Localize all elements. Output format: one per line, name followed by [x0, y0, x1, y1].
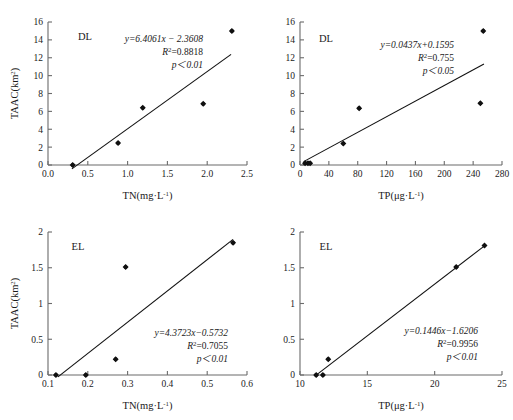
y-tick-label: 0: [290, 160, 295, 170]
x-tick-label: 0.5: [201, 379, 213, 389]
figure-container: 02468101214160.00.51.01.52.02.5DLy=6.406…: [0, 0, 513, 420]
x-tick-label: 120: [379, 169, 394, 179]
panel-bottom-left: 00.511.520.10.20.30.40.50.6ELy=4.3723x−0…: [0, 210, 257, 420]
x-tick-label: 80: [353, 169, 363, 179]
panel-top-right: 024681012141604080120160200240280DLy=0.0…: [256, 0, 513, 210]
r-squared: R2=0.9956: [436, 338, 478, 350]
x-tick-label: 240: [466, 169, 481, 179]
x-tick-label: 2.5: [241, 169, 253, 179]
x-tick-label: 0.4: [161, 379, 173, 389]
y-tick-label: 1: [38, 299, 43, 309]
x-tick-label: 1.5: [161, 169, 173, 179]
x-axis-title: TN(mg·L-1): [123, 190, 174, 203]
data-point-core: [54, 373, 58, 377]
x-tick-label: 0.6: [241, 379, 253, 389]
x-tick-label: 0: [298, 169, 303, 179]
y-tick-label: 1.5: [283, 263, 295, 273]
data-point-core: [341, 142, 345, 146]
x-tick-label: 0.0: [42, 169, 54, 179]
x-tick-label: 20: [430, 379, 440, 389]
y-tick-label: 12: [286, 53, 296, 63]
y-tick-label: 16: [34, 17, 44, 27]
data-point-core: [478, 101, 482, 105]
x-tick-label: 200: [437, 169, 452, 179]
panel-bottom-right: 00.511.5210152025ELy=0.1446x−1.6206R2=0.…: [256, 210, 513, 420]
x-tick-label: 160: [408, 169, 423, 179]
x-tick-label: 40: [324, 169, 334, 179]
x-tick-label: 0.1: [42, 379, 54, 389]
regression-line: [304, 64, 484, 162]
y-tick-label: 2: [38, 143, 43, 153]
y-tick-label: 1: [290, 299, 295, 309]
y-tick-label: 14: [34, 35, 44, 45]
y-axis-title: TAAC(km2): [9, 277, 22, 329]
y-tick-label: 2: [38, 227, 43, 237]
fit-equation: y=6.4061x − 2.3608: [124, 34, 204, 44]
x-tick-label: 25: [497, 379, 507, 389]
data-point-core: [481, 29, 485, 33]
r-squared: R2=0.8818: [161, 46, 203, 58]
data-point-core: [71, 163, 75, 167]
panel-top-left: 02468101214160.00.51.01.52.02.5DLy=6.406…: [0, 0, 257, 210]
y-tick-label: 2: [290, 227, 295, 237]
p-value: p＜0.01: [171, 60, 203, 70]
x-axis-title: TP(μg·L-1): [378, 400, 424, 413]
x-tick-label: 280: [495, 169, 510, 179]
data-point-core: [116, 141, 120, 145]
data-point-core: [84, 373, 88, 377]
p-value: p＜0.05: [422, 66, 455, 76]
data-point-core: [114, 357, 118, 361]
data-point-core: [357, 106, 361, 110]
x-tick-label: 15: [363, 379, 373, 389]
data-point-core: [308, 161, 312, 165]
data-point-core: [483, 244, 487, 248]
r-squared: R2=0.7055: [186, 340, 228, 352]
y-tick-label: 1.5: [31, 263, 43, 273]
p-value: p＜0.01: [446, 352, 478, 362]
fit-equation: y=4.3723x−0.5732: [153, 328, 228, 338]
plot-area: 024681012141604080120160200240280DLy=0.0…: [256, 0, 513, 210]
y-tick-label: 4: [290, 125, 295, 135]
x-tick-label: 0.5: [82, 169, 94, 179]
r-squared: R2=0.755: [417, 52, 454, 64]
y-tick-label: 6: [290, 107, 295, 117]
y-tick-label: 10: [286, 71, 296, 81]
group-label: DL: [319, 33, 333, 44]
group-label: EL: [320, 241, 333, 252]
y-tick-label: 0.5: [31, 335, 43, 345]
fit-equation: y=0.1446x−1.6206: [403, 326, 478, 336]
data-point-core: [201, 102, 205, 106]
y-axis-title: TAAC(km2): [9, 67, 22, 119]
y-tick-label: 0.5: [283, 335, 295, 345]
x-tick-label: 10: [295, 379, 305, 389]
x-axis-title: TN(mg·L-1): [123, 400, 174, 413]
y-tick-label: 8: [38, 89, 43, 99]
y-tick-label: 8: [290, 89, 295, 99]
data-point-core: [141, 106, 145, 110]
group-label: DL: [78, 31, 92, 42]
y-tick-label: 14: [286, 35, 296, 45]
data-point-core: [454, 265, 458, 269]
regression-line: [72, 54, 231, 169]
data-point-core: [230, 29, 234, 33]
x-tick-label: 1.0: [122, 169, 134, 179]
y-tick-label: 4: [38, 125, 43, 135]
x-tick-label: 0.3: [122, 379, 134, 389]
y-tick-label: 2: [290, 143, 295, 153]
p-value: p＜0.01: [196, 354, 228, 364]
x-tick-label: 2.0: [201, 169, 213, 179]
fit-equation: y=0.0437x+0.1595: [379, 40, 454, 50]
plot-area: 02468101214160.00.51.01.52.02.5DLy=6.406…: [0, 0, 257, 210]
data-point-core: [314, 373, 318, 377]
x-axis-title: TP(μg·L-1): [378, 190, 424, 203]
data-point-core: [321, 373, 325, 377]
y-tick-label: 6: [38, 107, 43, 117]
y-tick-label: 10: [34, 71, 44, 81]
y-tick-label: 12: [34, 53, 44, 63]
plot-area: 00.511.520.10.20.30.40.50.6ELy=4.3723x−0…: [0, 210, 257, 420]
y-tick-label: 16: [286, 17, 296, 27]
data-point-core: [231, 241, 235, 245]
data-point-core: [326, 357, 330, 361]
x-tick-label: 0.2: [82, 379, 94, 389]
group-label: EL: [72, 241, 85, 252]
